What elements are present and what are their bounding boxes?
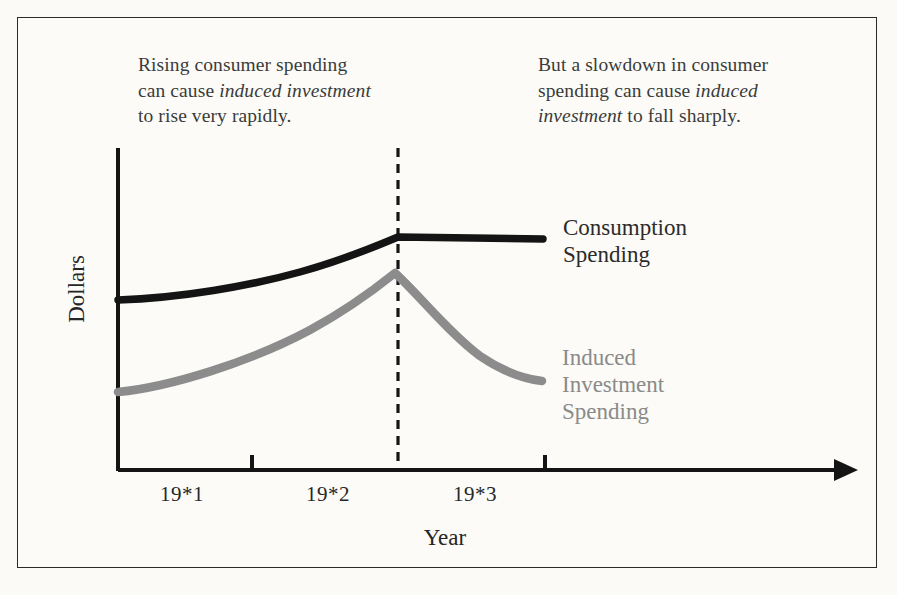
- series-label-induced-line3: Spending: [562, 399, 649, 424]
- annotation-left: Rising consumer spending can cause induc…: [138, 52, 458, 129]
- annotation-right-line2-pre: spending can cause: [538, 80, 695, 101]
- annotation-right-line3-emphasis: investment: [538, 105, 622, 126]
- x-axis-arrowhead: [834, 459, 858, 481]
- x-axis-tick-label-1: 19*2: [268, 482, 388, 507]
- annotation-right-line2-emphasis: induced: [695, 80, 757, 101]
- series-label-induced-line2: Investment: [562, 372, 664, 397]
- annotation-left-line1: Rising consumer spending: [138, 54, 347, 75]
- series-line-induced-investment: [118, 273, 542, 392]
- x-axis-tick-label-2: 19*3: [415, 482, 535, 507]
- series-label-consumption-spending: Consumption Spending: [563, 214, 687, 268]
- series-label-consumption-line1: Consumption: [563, 215, 687, 240]
- series-label-induced-line1: Induced: [562, 345, 636, 370]
- series-label-consumption-line2: Spending: [563, 242, 650, 267]
- x-axis-tick-label-0: 19*1: [122, 482, 242, 507]
- annotation-left-line2-pre: can cause: [138, 80, 219, 101]
- annotation-right: But a slowdown in consumer spending can …: [538, 52, 868, 129]
- x-axis-title: Year: [375, 525, 515, 551]
- chart-page: Rising consumer spending can cause induc…: [0, 0, 897, 595]
- annotation-left-line3: to rise very rapidly.: [138, 105, 292, 126]
- series-line-consumption-spending: [118, 237, 543, 300]
- annotation-left-line2-emphasis: induced investment: [219, 80, 371, 101]
- y-axis-title: Dollars: [64, 199, 90, 379]
- series-label-induced-investment: Induced Investment Spending: [562, 344, 664, 425]
- annotation-right-line1: But a slowdown in consumer: [538, 54, 768, 75]
- annotation-right-line3-post: to fall sharply.: [622, 105, 741, 126]
